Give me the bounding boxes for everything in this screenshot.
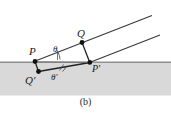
label-point-pprime: P′ [92,64,100,74]
figure-caption: (b) [0,96,171,107]
incident-ray-upper [34,16,152,62]
figure-panel: P Q Q′ P′ θ θ′ (b) [0,0,171,117]
wavefront-q-to-pprime [82,43,90,63]
point-marker-q [80,40,85,45]
point-marker-qprime [36,69,41,74]
label-point-p: P [29,46,36,57]
incident-ray-lower [90,35,161,63]
label-angle-theta-prime: θ′ [51,73,57,82]
construction-line-p-to-pprime [35,62,90,63]
label-point-q: Q [77,28,85,39]
label-angle-theta: θ [53,45,57,54]
point-marker-p [33,59,38,64]
angle-arc-theta [58,52,60,59]
label-point-qprime: Q′ [25,75,35,86]
